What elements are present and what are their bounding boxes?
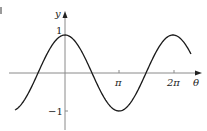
x-axis-arrow-icon	[195, 71, 202, 76]
y-tick-label-1: 1	[56, 25, 62, 36]
y-axis-arrow-icon	[63, 11, 68, 18]
cosine-plot: y 1 −1 π 2π θ	[0, 0, 207, 131]
x-tick-label-2pi: 2π	[166, 77, 180, 88]
y-axis-label: y	[54, 8, 61, 19]
x-tick-label-pi: π	[114, 77, 122, 88]
y-tick-label-neg1: −1	[48, 106, 63, 117]
x-axis-label: θ	[193, 77, 199, 88]
